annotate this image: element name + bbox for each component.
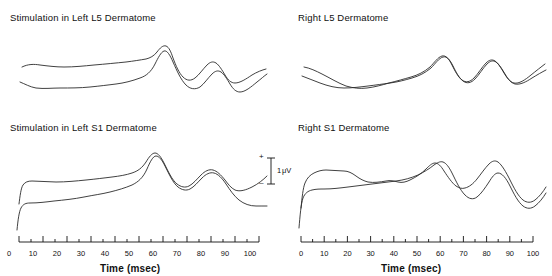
polarity-positive-sign: +: [259, 153, 264, 161]
tick-label-br-80: 80: [477, 249, 497, 258]
waveform-svg-bottom-left: [8, 144, 270, 234]
tick-label-br-60: 60: [430, 249, 450, 258]
waveform-plot-bottom-right: [290, 144, 548, 234]
tick-label-br-40: 40: [384, 249, 404, 258]
waveform-plot-top-left: [8, 40, 270, 110]
panel-title-top-right: Right L5 Dermatome: [298, 12, 388, 23]
x-axis-svg-bottom-left: [8, 234, 270, 248]
panel-title-bottom-left: Stimulation in Left S1 Dermatome: [10, 122, 157, 133]
panel-title-top-left: Stimulation in Left L5 Dermatome: [10, 12, 156, 23]
scalebar-value: 1: [277, 166, 281, 175]
tick-label-br-30: 30: [361, 249, 381, 258]
tick-label-br-50: 50: [407, 249, 427, 258]
tick-label-bl-30: 30: [71, 249, 91, 258]
trace-b-top-right: [302, 57, 546, 88]
tick-label-bl-40: 40: [95, 249, 115, 258]
waveform-plot-top-right: [290, 40, 548, 110]
tick-label-br-70: 70: [453, 249, 473, 258]
tick-label-bl-100: 100: [239, 249, 261, 258]
panel-title-bottom-right: Right S1 Dermatome: [298, 122, 389, 133]
panel-top-left: Stimulation in Left L5 Dermatome: [0, 0, 276, 120]
tick-label-br-100: 100: [522, 249, 544, 258]
trace-a-bottom-left: [19, 153, 267, 204]
trace-b-top-left: [20, 51, 267, 92]
tick-label-bl-20: 20: [47, 249, 67, 258]
tick-label-br-10: 10: [314, 249, 334, 258]
scalebar-unit: μV: [282, 166, 291, 175]
tick-label-br-20: 20: [337, 249, 357, 258]
waveform-svg-bottom-right: [290, 144, 548, 234]
tick-label-bl-10: 10: [23, 249, 43, 258]
waveform-plot-bottom-left: [8, 144, 270, 234]
trace-a-top-left: [22, 46, 266, 83]
x-axis-label-bottom-left: Time (msec): [100, 263, 160, 274]
tick-label-bl-70: 70: [167, 249, 187, 258]
x-axis-label-bottom-right: Time (msec): [381, 263, 441, 274]
x-axis-bottom-left: [8, 234, 270, 248]
tick-label-bl-60: 60: [143, 249, 163, 258]
panel-bottom-right: Right S1 Dermatome: [276, 116, 552, 276]
waveform-svg-top-right: [290, 40, 548, 110]
tick-label-br-90: 90: [500, 249, 520, 258]
tick-label-bl-50: 50: [119, 249, 139, 258]
waveform-svg-top-left: [8, 40, 270, 110]
dssep-figure: Stimulation in Left L5 Dermatome Right L…: [0, 0, 552, 276]
x-axis-svg-bottom-right: [290, 234, 548, 248]
panel-top-right: Right L5 Dermatome: [276, 0, 552, 120]
tick-label-bl-0: 0: [0, 249, 19, 258]
tick-label-br-0: 0: [291, 249, 311, 258]
tick-label-bl-90: 90: [215, 249, 235, 258]
x-axis-bottom-right: [290, 234, 548, 248]
calibration-scalebar: + – 1 μV: [258, 152, 298, 192]
tick-label-bl-80: 80: [191, 249, 211, 258]
polarity-negative-sign: –: [259, 179, 263, 187]
panel-bottom-left: Stimulation in Left S1 Dermatome: [0, 116, 276, 276]
